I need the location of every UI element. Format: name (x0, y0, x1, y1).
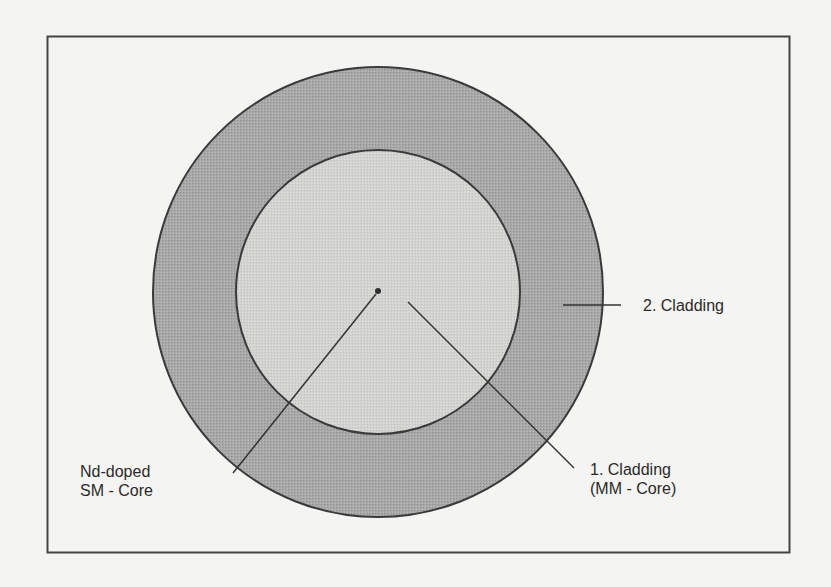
figure-page: Nd-doped SM - Core 1. Cladding (MM - Cor… (0, 0, 831, 587)
core-label-line2: SM - Core (80, 481, 153, 500)
cladding2-label: 2. Cladding (643, 296, 724, 315)
cladding1-label-line1: 1. Cladding (590, 460, 676, 479)
cladding1-label: 1. Cladding (MM - Core) (590, 460, 676, 498)
core-dot (375, 288, 381, 294)
cladding2-label-line1: 2. Cladding (643, 296, 724, 315)
cladding1-label-line2: (MM - Core) (590, 479, 676, 498)
core-label: Nd-doped SM - Core (80, 462, 153, 500)
core-label-line1: Nd-doped (80, 462, 153, 481)
